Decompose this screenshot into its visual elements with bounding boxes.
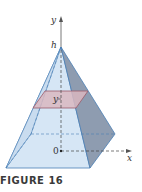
pyramid-diagram: y h 0 x y bbox=[0, 0, 142, 192]
cross-section-label: y bbox=[52, 94, 59, 104]
y-axis-label: y bbox=[50, 15, 57, 25]
pyramid-figure: y h 0 x y FIGURE 16 bbox=[0, 0, 142, 192]
y-axis-arrow-icon bbox=[59, 16, 63, 22]
apex-label: h bbox=[51, 40, 57, 50]
x-axis-label: x bbox=[127, 153, 132, 163]
origin-point bbox=[60, 150, 62, 152]
figure-caption: FIGURE 16 bbox=[0, 175, 63, 186]
origin-label: 0 bbox=[53, 146, 59, 156]
